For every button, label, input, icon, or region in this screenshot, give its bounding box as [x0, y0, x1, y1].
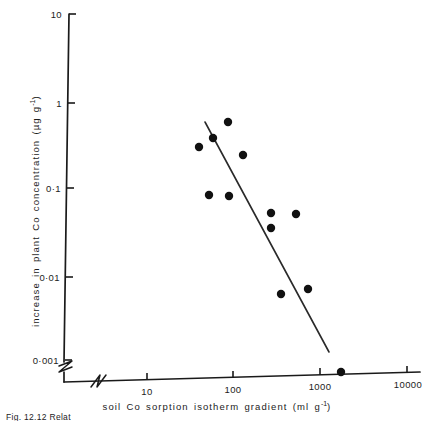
- data-point: [292, 210, 300, 218]
- trend-line: [205, 122, 329, 352]
- data-point: [224, 118, 232, 126]
- y-axis-title: increase in plant Co concentration (µg g…: [29, 81, 41, 341]
- data-point: [277, 290, 285, 298]
- figure-caption: Fig. 12.12 Relat: [6, 412, 71, 421]
- y-axis-title-tail: ): [30, 95, 41, 99]
- data-point: [239, 151, 247, 159]
- x-tick-label-10000: 10000: [386, 379, 430, 390]
- data-point: [337, 368, 345, 376]
- data-point: [195, 143, 203, 151]
- data-points: [195, 118, 345, 376]
- y-axis-break-mark: [59, 361, 72, 372]
- y-tick-label-10: 10: [28, 9, 62, 20]
- data-point: [225, 192, 233, 200]
- x-tick-label-100: 100: [215, 384, 251, 395]
- x-tick-label-1000: 1000: [301, 381, 339, 392]
- data-point: [304, 285, 312, 293]
- x-tick-label-10: 10: [129, 386, 165, 397]
- x-axis-title-tail: ): [327, 401, 331, 412]
- x-axis-title: soil Co sorption isotherm gradient (ml g…: [62, 400, 372, 412]
- figure-container: 10 1 0·1 0·01 0·001 10 100 1000 10000 in…: [0, 0, 434, 421]
- y-axis-title-main: increase in plant Co concentration (µg g: [30, 106, 41, 327]
- x-axis-line: [64, 372, 420, 382]
- x-axis-title-main: soil Co sorption isotherm gradient (ml g: [103, 401, 321, 412]
- y-axis-title-superscript: -1: [29, 100, 36, 106]
- data-point: [209, 134, 217, 142]
- y-tick-label-0-001: 0·001: [6, 355, 59, 366]
- data-point: [267, 209, 275, 217]
- data-point: [267, 224, 275, 232]
- scatter-plot-svg: [0, 0, 434, 421]
- data-point: [205, 191, 213, 199]
